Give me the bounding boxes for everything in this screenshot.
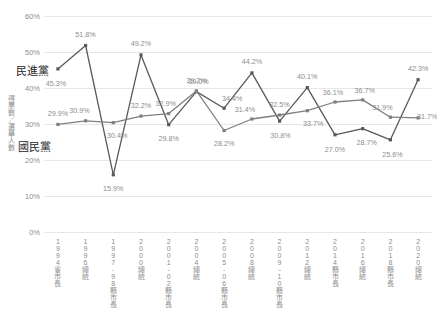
series-lines (44, 0, 432, 232)
data-point-marker (333, 100, 336, 103)
data-label: 30.8% (270, 131, 290, 140)
x-tick-label: 2020總統 (414, 238, 423, 280)
y-tick-label: 50% (6, 48, 40, 57)
plot-area: 45.3%51.8%15.9%49.2%29.8%39.0%34.4%44.2%… (44, 0, 432, 232)
data-label: 32.9% (156, 98, 176, 107)
data-label: 36.7% (355, 85, 375, 94)
y-tick-label: 0% (6, 228, 40, 237)
data-label: 45.3% (46, 78, 66, 87)
y-tick-label: 20% (6, 156, 40, 165)
x-tick-label: 2018縣市長 (386, 238, 395, 287)
data-label: 40.1% (297, 71, 317, 80)
data-label: 31.4% (235, 104, 255, 113)
data-point-marker (223, 129, 226, 132)
x-tick-label: 1994省市長 (53, 238, 62, 287)
data-point-marker (112, 121, 115, 124)
data-point-marker (223, 107, 226, 110)
data-point-marker (417, 78, 420, 81)
data-point-marker (112, 173, 115, 176)
data-point-marker (389, 138, 392, 141)
x-tick-label: 2001-02縣市長 (164, 238, 173, 308)
data-label: 29.9% (48, 109, 68, 118)
data-label: 28.2% (214, 139, 234, 148)
data-point-marker (56, 123, 59, 126)
x-tick-label: 2005-06縣市長 (220, 238, 229, 308)
data-label: 28.7% (357, 137, 377, 146)
data-label: 44.2% (242, 56, 262, 65)
data-label: 31.7% (417, 111, 437, 120)
x-tick-label: 2016總統 (358, 238, 367, 280)
data-point-marker (84, 119, 87, 122)
x-tick-label: 2008總統 (247, 238, 256, 280)
series-label-kmt: 國民黨 (18, 138, 51, 154)
data-label: 30.9% (69, 105, 89, 114)
data-label: 30.4% (107, 130, 127, 139)
data-point-marker (139, 53, 142, 56)
data-point-marker (361, 127, 364, 130)
data-point-marker (167, 112, 170, 115)
data-label: 27.0% (325, 144, 345, 153)
x-tick-label: 1996總統 (81, 238, 90, 280)
x-tick-label: 2000總統 (137, 238, 146, 280)
gridline (44, 232, 432, 233)
data-point-marker (139, 115, 142, 118)
y-tick-label: 60% (6, 12, 40, 21)
data-label: 39.2% (186, 75, 206, 84)
data-point-marker (84, 44, 87, 47)
x-tick-label: 2009-10縣市長 (275, 238, 284, 308)
data-point-marker (250, 71, 253, 74)
data-point-marker (56, 67, 59, 70)
data-label: 29.8% (159, 133, 179, 142)
y-tick-label: 30% (6, 120, 40, 129)
data-label: 15.9% (103, 183, 123, 192)
data-label: 34.4% (222, 94, 242, 103)
data-label: 25.6% (382, 149, 402, 158)
data-point-marker (278, 113, 281, 116)
data-point-marker (306, 109, 309, 112)
data-point-marker (361, 98, 364, 101)
y-axis-tick-labels: 60%50%40%30%20%10%0% (0, 0, 40, 315)
data-label: 31.9% (372, 103, 392, 112)
y-tick-label: 10% (6, 192, 40, 201)
series-label-dpp: 民進黨 (16, 62, 49, 78)
data-label: 49.2% (131, 38, 151, 47)
x-tick-label: 2004總統 (192, 238, 201, 280)
data-point-marker (333, 133, 336, 136)
data-label: 51.8% (75, 29, 95, 38)
x-tick-label: 1997-98縣市長 (109, 238, 118, 308)
data-label: 33.7% (303, 118, 323, 127)
x-tick-label: 2012總統 (303, 238, 312, 280)
data-point-marker (167, 123, 170, 126)
data-label: 32.5% (269, 100, 289, 109)
x-tick-label: 2014縣市長 (331, 238, 340, 287)
data-point-marker (250, 117, 253, 120)
x-axis-tick-labels: 1994省市長1996總統1997-98縣市長2000總統2001-02縣市長2… (44, 236, 432, 315)
data-point-marker (278, 120, 281, 123)
data-point-marker (389, 116, 392, 119)
data-label: 36.1% (323, 88, 343, 97)
y-tick-label: 40% (6, 84, 40, 93)
data-point-marker (195, 89, 198, 92)
data-point-marker (306, 86, 309, 89)
data-label: 42.3% (408, 63, 428, 72)
data-label: 32.2% (131, 101, 151, 110)
